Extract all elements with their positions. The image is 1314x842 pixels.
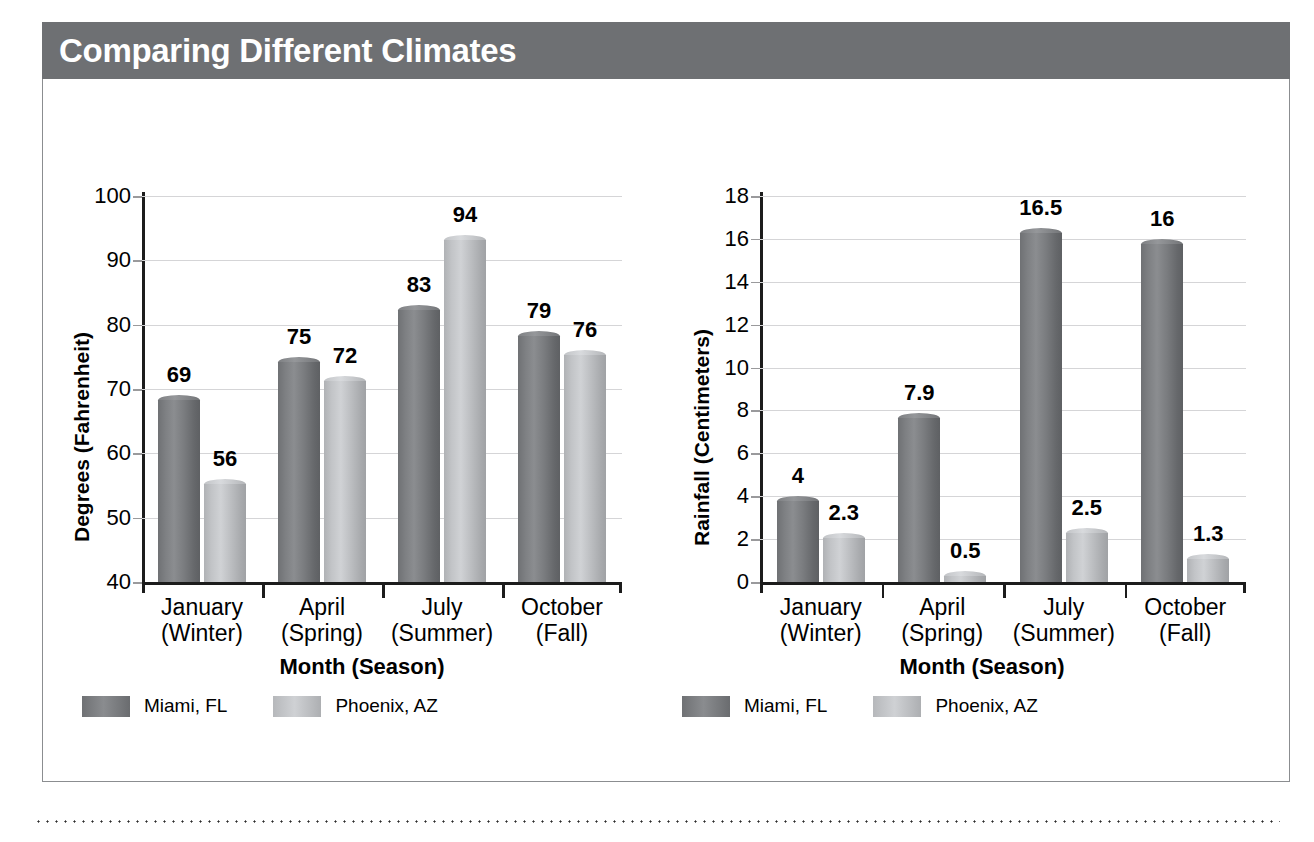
y-tick-mark — [133, 389, 142, 391]
bar-temperature-april-phoenix — [324, 376, 366, 582]
bar-temperature-july-phoenix — [444, 235, 486, 582]
bar-value-label: 79 — [527, 298, 551, 324]
x-tick-label-month: April — [901, 594, 983, 620]
x-axis-title: Month (Season) — [52, 654, 672, 680]
y-tick-mark — [751, 282, 760, 284]
x-tick-label: April(Spring) — [281, 594, 363, 646]
legend-item-miami: Miami, FL — [82, 695, 227, 717]
x-tick-label-season: (Spring) — [281, 620, 363, 646]
gridline — [760, 196, 1246, 197]
bar-value-label: 16.5 — [1019, 195, 1062, 221]
legend-label-miami: Miami, FL — [744, 695, 827, 717]
bar-body — [944, 576, 986, 582]
bar-temperature-january-phoenix — [204, 479, 246, 582]
plot-area: 02468101214161842.3January(Winter)7.90.5… — [760, 196, 1246, 582]
bar-value-label: 75 — [287, 324, 311, 350]
x-axis-left-cap — [760, 582, 763, 593]
x-tick-mark — [1125, 585, 1128, 598]
legend-label-phoenix: Phoenix, AZ — [935, 695, 1037, 717]
x-axis-title: Month (Season) — [672, 654, 1292, 680]
x-tick-mark — [882, 585, 885, 598]
y-tick-label: 100 — [94, 183, 131, 209]
y-tick-label: 8 — [737, 397, 749, 423]
legend-label-phoenix: Phoenix, AZ — [335, 695, 437, 717]
bar-value-label: 7.9 — [904, 380, 935, 406]
bar-body — [564, 355, 606, 582]
legend-swatch-phoenix — [273, 696, 321, 717]
y-tick-mark — [133, 453, 142, 455]
page-title: Comparing Different Climates — [42, 32, 516, 70]
y-tick-mark — [751, 496, 760, 498]
x-tick-label-season: (Fall) — [521, 620, 603, 646]
gridline — [142, 325, 622, 326]
x-tick-mark — [1003, 585, 1006, 598]
bar-rainfall-april-miami — [898, 413, 940, 582]
x-tick-label: July(Summer) — [391, 594, 493, 646]
bar-temperature-july-miami — [398, 305, 440, 582]
bar-body — [898, 418, 940, 582]
y-tick-label: 60 — [107, 440, 131, 466]
chart-temperature: Degrees (Fahrenheit) 4050607080901006956… — [52, 150, 672, 760]
y-tick-label: 50 — [107, 505, 131, 531]
bar-body — [518, 336, 560, 582]
legend-rainfall: Miami, FL Phoenix, AZ — [682, 695, 1084, 717]
bar-rainfall-october-phoenix — [1187, 554, 1229, 582]
x-tick-label-month: July — [391, 594, 493, 620]
y-tick-label: 70 — [107, 376, 131, 402]
y-tick-mark — [751, 582, 760, 584]
x-tick-label-month: July — [1013, 594, 1115, 620]
bar-temperature-october-miami — [518, 331, 560, 582]
y-tick-mark — [133, 582, 142, 584]
plot-area: 4050607080901006956January(Winter)7572Ap… — [142, 196, 622, 582]
x-tick-label-season: (Winter) — [780, 620, 862, 646]
bar-value-label: 76 — [573, 317, 597, 343]
x-tick-label: January(Winter) — [161, 594, 243, 646]
x-tick-label-month: October — [521, 594, 603, 620]
x-tick-mark — [502, 585, 505, 598]
y-tick-mark — [133, 325, 142, 327]
bar-body — [777, 501, 819, 582]
bar-value-label: 0.5 — [950, 538, 981, 564]
y-tick-label: 14 — [725, 269, 749, 295]
bar-value-label: 69 — [167, 362, 191, 388]
bar-body — [1187, 559, 1229, 582]
legend-swatch-miami — [682, 696, 730, 717]
bar-body — [324, 381, 366, 582]
x-tick-label-season: (Winter) — [161, 620, 243, 646]
y-tick-mark — [751, 410, 760, 412]
bar-value-label: 56 — [213, 446, 237, 472]
x-tick-label-month: January — [780, 594, 862, 620]
y-tick-label: 0 — [737, 569, 749, 595]
bar-rainfall-october-miami — [1141, 239, 1183, 582]
x-tick-mark — [382, 585, 385, 598]
bar-body — [823, 538, 865, 582]
bar-body — [398, 310, 440, 582]
y-tick-label: 12 — [725, 312, 749, 338]
x-tick-label-month: October — [1144, 594, 1226, 620]
bar-value-label: 16 — [1150, 206, 1174, 232]
legend-label-miami: Miami, FL — [144, 695, 227, 717]
y-tick-mark — [751, 453, 760, 455]
x-tick-label-season: (Fall) — [1144, 620, 1226, 646]
y-tick-label: 6 — [737, 440, 749, 466]
y-axis-line — [760, 192, 763, 586]
x-tick-label-season: (Summer) — [391, 620, 493, 646]
x-tick-label-season: (Spring) — [901, 620, 983, 646]
y-tick-label: 90 — [107, 247, 131, 273]
x-tick-mark — [262, 585, 265, 598]
legend-item-phoenix: Phoenix, AZ — [273, 695, 437, 717]
x-tick-label: July(Summer) — [1013, 594, 1115, 646]
y-tick-label: 18 — [725, 183, 749, 209]
bar-rainfall-january-miami — [777, 496, 819, 582]
bar-body — [278, 362, 320, 582]
x-tick-label-month: January — [161, 594, 243, 620]
bar-body — [1141, 244, 1183, 582]
y-tick-label: 4 — [737, 483, 749, 509]
bar-value-label: 4 — [792, 463, 804, 489]
y-axis-title: Degrees (Fahrenheit) — [70, 332, 94, 542]
x-tick-label: April(Spring) — [901, 594, 983, 646]
y-tick-label: 16 — [725, 226, 749, 252]
y-tick-mark — [751, 239, 760, 241]
x-axis-right-cap — [1243, 582, 1246, 593]
legend-temperature: Miami, FL Phoenix, AZ — [82, 695, 484, 717]
